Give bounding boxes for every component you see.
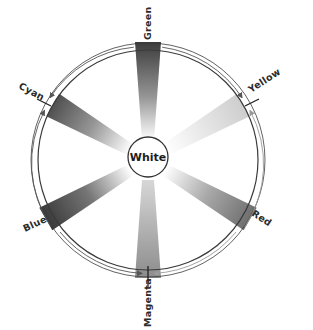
wedge-green bbox=[135, 42, 161, 140]
label-cyan: Cyan bbox=[17, 80, 46, 103]
tick-yellow bbox=[245, 99, 259, 106]
label-green: Green bbox=[142, 6, 153, 40]
center-label-white: White bbox=[130, 151, 166, 164]
label-blue: Blue bbox=[21, 213, 48, 233]
wedge-yellow bbox=[159, 94, 250, 162]
wedge-magenta bbox=[135, 180, 161, 278]
label-red: Red bbox=[250, 207, 274, 228]
arrow-green-to-yellow bbox=[162, 47, 242, 97]
wedge-cyan bbox=[46, 94, 137, 162]
label-yellow: Yellow bbox=[245, 66, 282, 95]
wedge-red bbox=[159, 159, 257, 231]
color-wheel-diagram: White Green Yellow Cyan Blue Red Magenta bbox=[0, 0, 313, 330]
wedge-blue bbox=[39, 159, 137, 231]
label-magenta: Magenta bbox=[142, 278, 153, 327]
